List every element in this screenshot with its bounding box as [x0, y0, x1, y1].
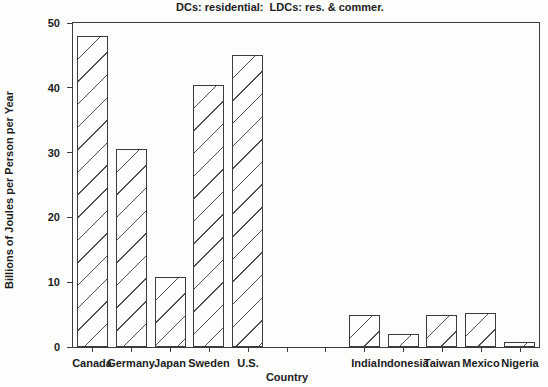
- bar-india: [349, 315, 380, 347]
- x-axis-title: Country: [72, 371, 502, 383]
- x-category-label-us: U.S.: [237, 357, 258, 369]
- x-category-label-mexico: Mexico: [462, 357, 499, 369]
- x-tick-mark: [325, 348, 326, 352]
- x-tick-mark: [92, 348, 93, 352]
- y-tick-mark: [67, 87, 72, 88]
- x-category-label-india: India: [351, 357, 377, 369]
- x-tick-mark: [287, 348, 288, 352]
- bar-indonesia: [388, 334, 419, 347]
- bar-nigeria: [504, 342, 535, 347]
- x-tick-mark: [442, 348, 443, 352]
- bar-japan: [155, 277, 186, 347]
- y-tick-mark: [67, 23, 72, 24]
- y-axis-title: Billions of Joules per Person per Year: [3, 91, 15, 289]
- bar-germany: [116, 149, 147, 347]
- bar-mexico: [465, 313, 496, 347]
- y-tick-label-50: 50: [30, 16, 60, 30]
- y-tick-label-10: 10: [30, 275, 60, 289]
- x-category-label-canada: Canada: [72, 357, 112, 369]
- bar-canada: [77, 36, 108, 347]
- x-tick-mark: [520, 348, 521, 352]
- x-category-label-indonesia: Indonesia: [377, 357, 428, 369]
- bar-chart-figure: DCs: residential: LDCs: res. & commer. B…: [0, 0, 548, 387]
- y-tick-label-40: 40: [30, 81, 60, 95]
- x-category-label-germany: Germany: [107, 357, 155, 369]
- x-tick-mark: [131, 348, 132, 352]
- x-category-label-nigeria: Nigeria: [501, 357, 538, 369]
- x-category-label-taiwan: Taiwan: [424, 357, 460, 369]
- x-tick-mark: [248, 348, 249, 352]
- y-tick-mark: [67, 282, 72, 283]
- x-tick-mark: [403, 348, 404, 352]
- y-tick-mark: [67, 152, 72, 153]
- y-tick-label-0: 0: [30, 340, 60, 354]
- y-tick-label-30: 30: [30, 146, 60, 160]
- x-tick-mark: [170, 348, 171, 352]
- x-tick-mark: [364, 348, 365, 352]
- x-category-label-sweden: Sweden: [188, 357, 230, 369]
- y-tick-mark: [67, 217, 72, 218]
- bar-sweden: [193, 85, 224, 347]
- chart-title: DCs: residential: LDCs: res. & commer.: [30, 1, 530, 13]
- bar-us: [232, 55, 263, 347]
- x-tick-mark: [481, 348, 482, 352]
- x-tick-mark: [209, 348, 210, 352]
- y-tick-label-20: 20: [30, 210, 60, 224]
- x-category-label-japan: Japan: [154, 357, 186, 369]
- bar-taiwan: [426, 315, 457, 347]
- plot-area: [72, 22, 540, 348]
- y-tick-mark: [67, 347, 72, 348]
